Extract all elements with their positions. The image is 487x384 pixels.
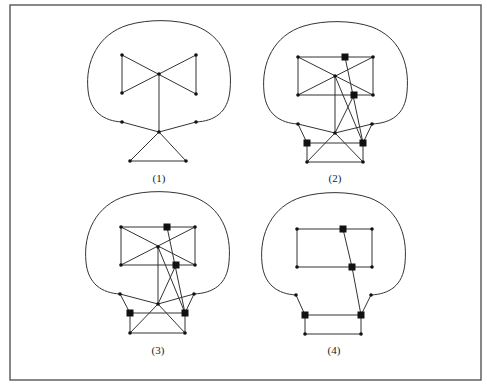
dot-node bbox=[157, 130, 161, 134]
dot-node bbox=[333, 74, 337, 78]
dot-node bbox=[369, 293, 373, 297]
graph-edge bbox=[159, 132, 186, 161]
dot-node bbox=[371, 55, 375, 59]
dot-node bbox=[370, 122, 374, 126]
dot-node bbox=[296, 55, 300, 59]
head-outline bbox=[264, 22, 408, 124]
dot-node bbox=[119, 225, 123, 229]
dot-node bbox=[128, 159, 132, 163]
panel-2: (2) bbox=[264, 22, 408, 185]
dot-node bbox=[296, 93, 300, 97]
square-node bbox=[182, 310, 189, 317]
graph-edge bbox=[343, 229, 352, 267]
graph-edge bbox=[352, 267, 361, 315]
panel-1: (1) bbox=[88, 21, 231, 185]
graph-figure: (1) (2) (3) (4) bbox=[0, 0, 487, 384]
graph-edge bbox=[130, 132, 159, 161]
graph-edge bbox=[158, 304, 185, 333]
dot-node bbox=[296, 122, 300, 126]
square-node bbox=[351, 92, 358, 99]
dot-node bbox=[156, 245, 160, 249]
graph-edge bbox=[335, 124, 372, 133]
dot-node bbox=[305, 160, 309, 164]
square-node bbox=[342, 54, 349, 61]
dot-node bbox=[120, 91, 124, 95]
dot-node bbox=[194, 120, 198, 124]
panel-caption: (4) bbox=[328, 344, 341, 357]
panel-4: (4) bbox=[262, 193, 406, 357]
dot-node bbox=[194, 53, 198, 57]
dot-node bbox=[370, 227, 374, 231]
dot-node bbox=[193, 263, 197, 267]
graph-edge bbox=[158, 294, 194, 304]
graph-edge bbox=[120, 294, 158, 304]
dot-node bbox=[157, 72, 161, 76]
panel-caption: (1) bbox=[153, 172, 166, 185]
edge-group bbox=[122, 55, 196, 161]
dot-node bbox=[333, 131, 337, 135]
square-node bbox=[304, 140, 311, 147]
graph-edge bbox=[298, 124, 335, 133]
dot-node bbox=[120, 120, 124, 124]
graph-edge bbox=[167, 227, 185, 313]
square-node bbox=[127, 310, 134, 317]
square-node bbox=[358, 312, 365, 319]
dot-node bbox=[184, 159, 188, 163]
dot-node bbox=[183, 331, 187, 335]
dot-node bbox=[294, 293, 298, 297]
graph-edge bbox=[130, 304, 158, 333]
node-group bbox=[294, 226, 374, 336]
dot-node bbox=[370, 265, 374, 269]
dot-node bbox=[303, 332, 307, 336]
edge-group bbox=[120, 227, 195, 333]
dot-node bbox=[128, 331, 132, 335]
figure-frame bbox=[10, 5, 481, 380]
dot-node bbox=[156, 302, 160, 306]
square-node bbox=[349, 264, 356, 271]
dot-node bbox=[118, 292, 122, 296]
dot-node bbox=[120, 53, 124, 57]
square-node bbox=[340, 226, 347, 233]
square-node bbox=[302, 312, 309, 319]
graph-edge bbox=[159, 122, 196, 132]
panel-3: (3) bbox=[86, 192, 230, 357]
graph-edge bbox=[335, 76, 363, 143]
dot-node bbox=[361, 160, 365, 164]
panel-caption: (2) bbox=[329, 172, 342, 185]
dot-node bbox=[119, 263, 123, 267]
dot-node bbox=[194, 92, 198, 96]
figure-canvas: (1) (2) (3) (4) bbox=[0, 0, 487, 384]
dot-node bbox=[371, 93, 375, 97]
graph-edge bbox=[335, 133, 363, 162]
graph-edge bbox=[307, 133, 335, 162]
head-outline bbox=[262, 193, 406, 295]
square-node bbox=[173, 262, 180, 269]
square-node bbox=[164, 224, 171, 231]
graph-edge bbox=[122, 122, 159, 132]
panel-caption: (3) bbox=[152, 344, 165, 357]
dot-node bbox=[359, 332, 363, 336]
dot-node bbox=[295, 265, 299, 269]
dot-node bbox=[192, 292, 196, 296]
dot-node bbox=[193, 225, 197, 229]
dot-node bbox=[295, 227, 299, 231]
square-node bbox=[360, 140, 367, 147]
